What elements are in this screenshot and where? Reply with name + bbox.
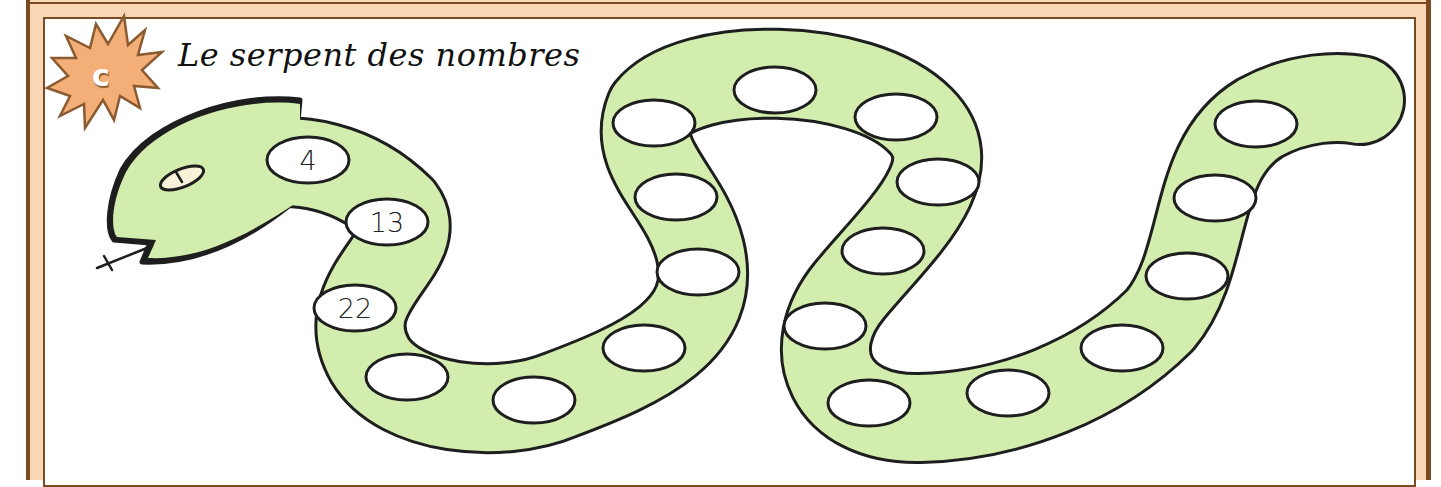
number-cell-empty[interactable] bbox=[635, 174, 717, 220]
number-cell-empty[interactable] bbox=[1081, 325, 1163, 371]
number-cell-empty[interactable] bbox=[784, 303, 866, 349]
cell-value: 4 bbox=[299, 145, 316, 176]
number-cell-empty[interactable] bbox=[493, 377, 575, 423]
snake-head bbox=[113, 103, 300, 259]
number-cell-empty[interactable] bbox=[842, 228, 924, 274]
number-cell-empty[interactable] bbox=[734, 67, 816, 113]
cell-value: 13 bbox=[370, 207, 404, 238]
cell-value: 22 bbox=[338, 293, 372, 324]
number-cell-empty[interactable] bbox=[855, 94, 937, 140]
number-cell-empty[interactable] bbox=[603, 325, 685, 371]
number-cell-empty[interactable] bbox=[1146, 253, 1228, 299]
number-cell-empty[interactable] bbox=[366, 354, 448, 400]
number-cell-empty[interactable] bbox=[1215, 101, 1297, 147]
page-title: Le serpent des nombres bbox=[178, 36, 580, 74]
number-cell-empty[interactable] bbox=[613, 100, 695, 146]
number-cell-empty[interactable] bbox=[897, 159, 979, 205]
exercise-letter: c bbox=[86, 58, 116, 93]
number-cell-empty[interactable] bbox=[828, 380, 910, 426]
number-cell-empty[interactable] bbox=[657, 249, 739, 295]
number-cell-empty[interactable] bbox=[967, 370, 1049, 416]
number-cell-empty[interactable] bbox=[1174, 175, 1256, 221]
